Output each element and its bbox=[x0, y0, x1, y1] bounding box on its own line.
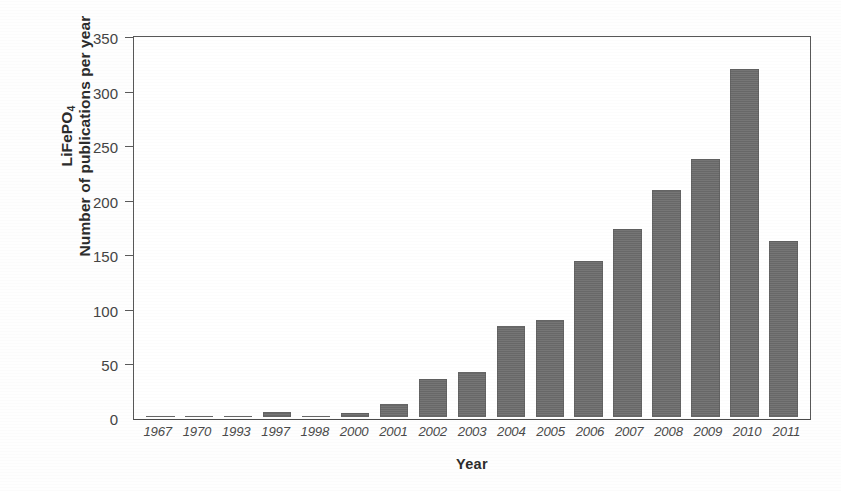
x-axis-tick-label: 1967 bbox=[138, 424, 177, 446]
y-axis-title-compound: LiFePO4 bbox=[58, 106, 76, 167]
bar-2003 bbox=[458, 372, 487, 418]
x-axis-tick-labels: 1967197019931997199820002001200220032004… bbox=[133, 424, 811, 446]
bar-slot bbox=[336, 37, 375, 417]
y-axis-tick-label: 200 bbox=[93, 193, 118, 210]
bar-slot bbox=[219, 37, 258, 417]
bar-slot bbox=[141, 37, 180, 417]
plot-area: 350300250200150100500 bbox=[133, 36, 811, 420]
bar-2002 bbox=[419, 379, 448, 417]
x-axis-tick-label: 2004 bbox=[492, 424, 531, 446]
bar-2004 bbox=[497, 326, 526, 418]
bar-slot bbox=[686, 37, 725, 417]
bar-slot bbox=[452, 37, 491, 417]
bar-2006 bbox=[574, 261, 603, 417]
y-axis-title-secondary: Number of publications per year bbox=[76, 16, 94, 257]
bar-slot bbox=[530, 37, 569, 417]
bar-2007 bbox=[613, 229, 642, 418]
bar-slot bbox=[647, 37, 686, 417]
y-axis-tick-label: 0 bbox=[110, 411, 118, 428]
y-axis-tick-label: 150 bbox=[93, 248, 118, 265]
x-axis-tick-label: 2011 bbox=[767, 424, 806, 446]
bar-1997 bbox=[263, 412, 292, 417]
y-axis-title-formula-base: LiFePO bbox=[58, 112, 75, 167]
y-axis-title: LiFePO4 Number of publications per year bbox=[53, 0, 99, 331]
bar-slot bbox=[413, 37, 452, 417]
bar-series bbox=[136, 37, 809, 417]
y-axis-tick-50: 50 bbox=[125, 364, 134, 365]
y-axis-tick-label: 100 bbox=[93, 302, 118, 319]
bar-1970 bbox=[185, 416, 214, 417]
x-axis-tick-label: 2005 bbox=[531, 424, 570, 446]
bar-slot bbox=[569, 37, 608, 417]
bar-slot bbox=[375, 37, 414, 417]
bar-slot bbox=[725, 37, 764, 417]
x-axis-tick-label: 2009 bbox=[688, 424, 727, 446]
y-axis-tick-label: 300 bbox=[93, 84, 118, 101]
x-axis-tick-label: 2010 bbox=[727, 424, 766, 446]
x-axis-tick-label: 1993 bbox=[217, 424, 256, 446]
bar-slot bbox=[491, 37, 530, 417]
y-axis-tick-label: 350 bbox=[93, 30, 118, 47]
x-axis-tick-label: 2002 bbox=[413, 424, 452, 446]
y-axis-tick-label: 250 bbox=[93, 139, 118, 156]
x-axis-tick-label: 1998 bbox=[295, 424, 334, 446]
y-axis-tick-300: 300 bbox=[125, 92, 134, 93]
bar-2005 bbox=[536, 320, 565, 417]
bar-2010 bbox=[730, 69, 759, 417]
y-axis-tick-label: 50 bbox=[101, 357, 118, 374]
x-axis-tick-label: 1970 bbox=[177, 424, 216, 446]
chart-figure: LiFePO4 Number of publications per year … bbox=[0, 0, 841, 491]
bar-1993 bbox=[224, 416, 253, 417]
x-axis-tick-label: 1997 bbox=[256, 424, 295, 446]
x-axis-title: Year bbox=[133, 456, 811, 472]
x-axis-tick-label: 2001 bbox=[374, 424, 413, 446]
bar-1967 bbox=[146, 416, 175, 417]
x-axis-tick-label: 2008 bbox=[649, 424, 688, 446]
x-axis-tick-label: 2000 bbox=[334, 424, 373, 446]
y-axis-tick-150: 150 bbox=[125, 255, 134, 256]
bar-slot bbox=[258, 37, 297, 417]
bar-2008 bbox=[652, 190, 681, 417]
x-axis-tick-label: 2007 bbox=[610, 424, 649, 446]
bar-2000 bbox=[341, 413, 370, 417]
bar-2001 bbox=[380, 404, 409, 417]
bar-2009 bbox=[691, 159, 720, 418]
bar-slot bbox=[297, 37, 336, 417]
y-axis-tick-100: 100 bbox=[125, 310, 134, 311]
bar-slot bbox=[180, 37, 219, 417]
x-axis-tick-label: 2003 bbox=[452, 424, 491, 446]
y-axis-title-formula-subscript: 4 bbox=[65, 106, 77, 112]
bar-slot bbox=[608, 37, 647, 417]
bar-2011 bbox=[769, 241, 798, 418]
y-axis-tick-250: 250 bbox=[125, 146, 134, 147]
bar-1998 bbox=[302, 416, 331, 417]
y-axis-tick-350: 350 bbox=[125, 37, 134, 38]
y-axis-tick-200: 200 bbox=[125, 201, 134, 202]
x-axis-tick-label: 2006 bbox=[570, 424, 609, 446]
bar-slot bbox=[764, 37, 803, 417]
